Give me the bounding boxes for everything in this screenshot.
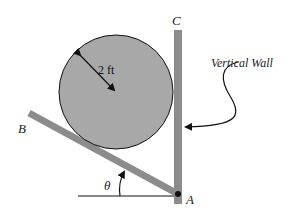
cylinder	[59, 35, 173, 149]
vertical-wall	[174, 30, 182, 204]
label-radius: 2 ft	[98, 63, 115, 77]
label-c: C	[172, 13, 181, 28]
wall-pointer	[186, 62, 238, 127]
label-b: B	[18, 121, 26, 136]
diagram-canvas: C B A θ 2 ft Vertical Wall	[0, 0, 297, 220]
label-a: A	[185, 192, 194, 207]
pin-a	[175, 191, 181, 197]
angle-arc	[120, 172, 125, 196]
label-theta: θ	[104, 178, 111, 193]
label-wall: Vertical Wall	[211, 56, 274, 70]
